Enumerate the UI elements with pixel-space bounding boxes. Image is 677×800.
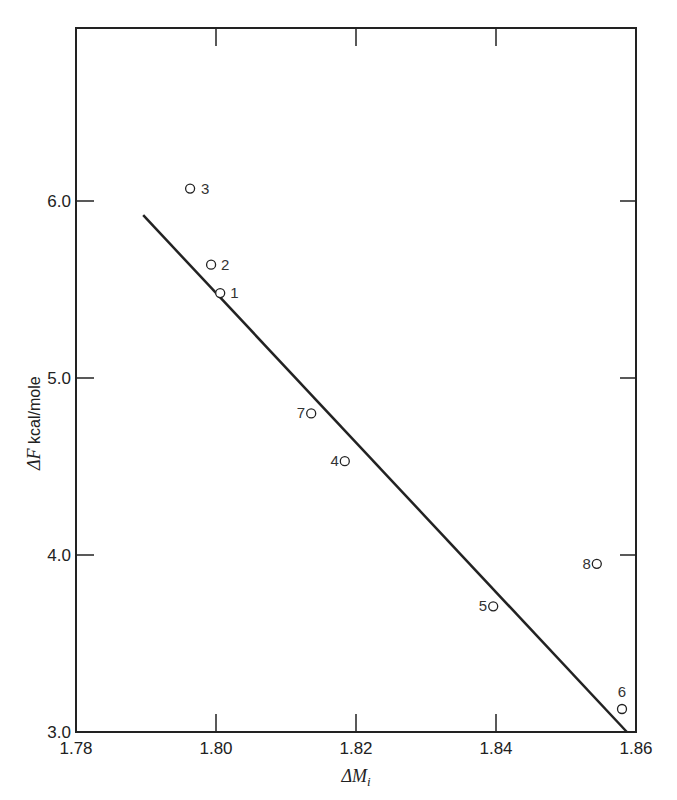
- x-tick-label: 1.80: [199, 739, 232, 758]
- open-circle-marker: [207, 260, 216, 269]
- open-circle-marker: [186, 184, 195, 193]
- plot-border: [76, 28, 636, 732]
- data-points: 12345678: [186, 180, 627, 714]
- data-point: 4: [330, 452, 349, 469]
- point-label: 6: [618, 683, 626, 700]
- point-label: 3: [201, 180, 209, 197]
- point-label: 5: [479, 597, 487, 614]
- axis-ticks: [76, 28, 636, 732]
- y-tick-label: 6.0: [47, 192, 71, 211]
- open-circle-marker: [216, 289, 225, 298]
- plot-frame: [76, 28, 636, 732]
- data-point: 2: [207, 256, 230, 273]
- x-tick-label: 1.84: [479, 739, 512, 758]
- axis-tick-labels: 1.781.801.821.841.863.04.05.06.0: [47, 192, 652, 758]
- open-circle-marker: [489, 602, 498, 611]
- data-point: 3: [186, 180, 210, 197]
- point-label: 4: [330, 452, 338, 469]
- x-tick-label: 1.82: [339, 739, 372, 758]
- open-circle-marker: [592, 559, 601, 568]
- y-tick-label: 5.0: [47, 369, 71, 388]
- open-circle-marker: [618, 704, 627, 713]
- y-tick-label: 4.0: [47, 546, 71, 565]
- data-point: 8: [582, 555, 601, 572]
- y-axis-title: ΔF kcal/mole: [24, 376, 44, 471]
- open-circle-marker: [340, 457, 349, 466]
- x-axis-title: ΔMi: [340, 766, 371, 789]
- y-tick-label: 3.0: [47, 723, 71, 742]
- point-label: 1: [230, 284, 238, 301]
- open-circle-marker: [307, 409, 316, 418]
- data-point: 7: [297, 404, 316, 421]
- data-point: 1: [216, 284, 239, 301]
- point-label: 8: [582, 555, 590, 572]
- x-tick-label: 1.86: [619, 739, 652, 758]
- data-point: 6: [618, 683, 627, 714]
- point-label: 7: [297, 404, 305, 421]
- point-label: 2: [221, 256, 229, 273]
- data-point: 5: [479, 597, 498, 614]
- scatter-chart: 1.781.801.821.841.863.04.05.06.0 1234567…: [0, 0, 677, 800]
